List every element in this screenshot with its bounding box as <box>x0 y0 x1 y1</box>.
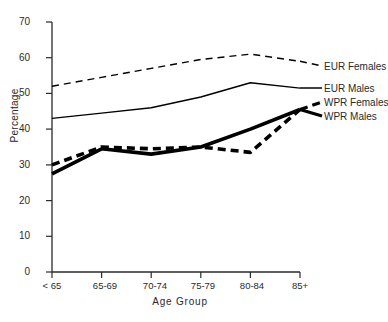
series-line-eur-males <box>52 83 300 119</box>
series-group <box>52 54 300 174</box>
legend-label-wpr-males: WPR Males <box>324 111 377 122</box>
series-line-wpr-males <box>52 110 300 174</box>
legend-label-eur-females: EUR Females <box>324 61 386 72</box>
legend-leader-wpr-females <box>300 102 322 110</box>
y-tick-marks <box>46 22 52 272</box>
legend-leader-lines <box>300 61 322 116</box>
x-tick-marks <box>52 272 300 278</box>
legend-leader-wpr-males <box>300 110 322 117</box>
legend-leader-eur-females <box>300 61 322 66</box>
series-line-eur-females <box>52 54 300 86</box>
legend-label-wpr-females: WPR Females <box>324 97 388 108</box>
legend-label-eur-males: EUR Males <box>324 83 375 94</box>
